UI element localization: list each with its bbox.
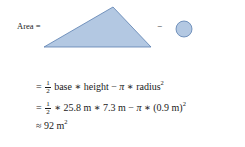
circle-shape bbox=[176, 21, 192, 37]
exponent: 2 bbox=[161, 79, 164, 86]
formula-text: ∗ 25.8 m ∗ 7.3 m − bbox=[54, 102, 136, 113]
approx-sign: ≈ bbox=[36, 120, 42, 131]
exponent: 2 bbox=[64, 118, 67, 125]
equals-sign: = bbox=[36, 81, 42, 92]
formula-text: ∗ radius bbox=[124, 81, 160, 92]
formula-text: ∗ (0.9 m) bbox=[141, 102, 182, 113]
formula-text: base ∗ height − bbox=[54, 81, 119, 92]
exponent: 2 bbox=[183, 100, 186, 107]
minus-operator: − bbox=[157, 21, 162, 31]
result-value: 92 m bbox=[44, 120, 64, 131]
fraction-half: 12 bbox=[45, 80, 51, 95]
equation-line-1: = 12 base ∗ height − π ∗ radius2 bbox=[36, 80, 164, 95]
fraction-half: 12 bbox=[45, 101, 51, 116]
equals-sign: = bbox=[36, 102, 42, 113]
area-figure bbox=[0, 0, 245, 60]
equation-line-2: = 12 ∗ 25.8 m ∗ 7.3 m − π ∗ (0.9 m)2 bbox=[36, 101, 186, 116]
equation-line-3: ≈ 92 m2 bbox=[36, 120, 68, 132]
triangle-shape bbox=[44, 7, 151, 47]
